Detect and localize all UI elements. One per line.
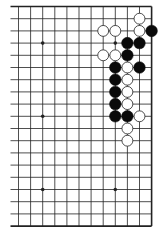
black-stone [110,98,122,110]
white-stone [122,74,133,85]
star-point [114,188,118,192]
black-stone [146,25,158,37]
black-stone [122,37,133,49]
white-stone [134,111,145,122]
white-stone [110,25,121,36]
star-point [41,41,45,45]
white-stone [122,86,133,97]
white-stone [110,50,121,61]
white-stone [122,99,133,110]
black-stone [110,74,122,86]
white-stone [122,62,133,73]
white-stone [98,50,109,61]
star-point [114,41,118,45]
white-stone [122,123,133,134]
black-stone [110,111,122,123]
star-point [41,115,45,119]
go-board [0,0,163,235]
black-stone [110,86,122,98]
white-stone [134,13,145,24]
white-stone [122,135,133,146]
white-stone [98,25,109,36]
black-stone [122,50,133,62]
black-stone [110,62,122,74]
black-stone [122,111,133,123]
white-stone [134,25,145,36]
star-point [41,188,45,192]
black-stone [134,37,146,49]
black-stone [134,62,146,74]
